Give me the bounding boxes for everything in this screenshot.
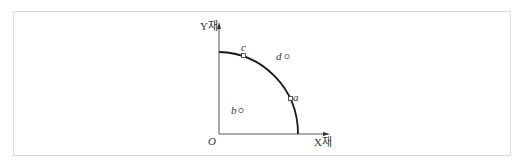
ppf-curve [219, 52, 298, 134]
point-d-marker [285, 54, 289, 58]
y-axis-label: Y재 [200, 20, 218, 32]
point-b-label: b [231, 104, 237, 116]
origin-label: O [208, 135, 216, 147]
point-a-label: a [293, 91, 299, 103]
point-c-label: c [241, 41, 246, 53]
ppf-diagram: c a d b Y재 X재 O [0, 0, 525, 167]
point-a-marker [289, 97, 293, 101]
x-axis-label: X재 [314, 136, 332, 148]
point-c-marker [242, 54, 246, 58]
point-b-marker [239, 108, 243, 112]
point-d-label: d [276, 50, 282, 62]
